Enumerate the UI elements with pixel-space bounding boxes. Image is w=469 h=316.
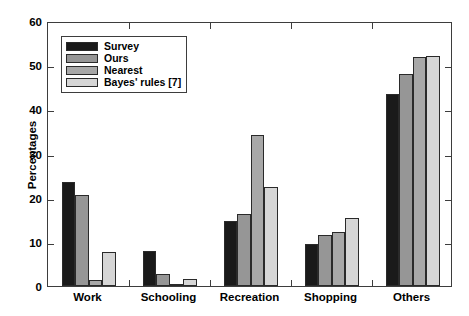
x-tick-mark [129, 23, 130, 29]
y-tick-mark [445, 244, 451, 245]
bar-recreation-bayes-rules-7 [264, 187, 278, 286]
x-tick-label: Schooling [141, 291, 197, 303]
bar-work-survey [62, 182, 76, 286]
bar-others-nearest [413, 57, 427, 286]
bar-others-bayes-rules-7 [426, 56, 440, 286]
legend-label-ours: Ours [104, 53, 129, 64]
x-tick-mark [129, 280, 130, 286]
bar-work-bayes-rules-7 [102, 252, 116, 286]
x-tick-label: Work [73, 291, 102, 303]
bar-work-nearest [89, 280, 103, 286]
y-tick-label: 10 [29, 237, 42, 249]
legend-swatch-bayes-rules [66, 78, 98, 87]
x-tick-mark [372, 23, 373, 29]
legend-swatch-ours [66, 54, 98, 63]
y-tick-mark [445, 156, 451, 157]
y-tick-mark [445, 67, 451, 68]
bar-work-ours [75, 195, 89, 286]
x-tick-label: Shopping [304, 291, 357, 303]
bar-recreation-survey [224, 221, 238, 286]
legend-swatch-nearest [66, 66, 98, 75]
plot-area: Survey Ours Nearest Bayes' rules [7] [47, 22, 452, 287]
y-tick-label: 20 [29, 193, 42, 205]
bar-others-ours [399, 74, 413, 286]
bar-schooling-bayes-rules-7 [183, 279, 197, 286]
x-tick-mark [291, 280, 292, 286]
x-tick-label: Others [393, 291, 430, 303]
y-tick-mark [48, 67, 54, 68]
legend-swatch-survey [66, 42, 98, 51]
bar-others-survey [386, 94, 400, 286]
x-tick-mark [210, 280, 211, 286]
x-tick-mark [372, 280, 373, 286]
legend-item-bayes-rules: Bayes' rules [7] [66, 77, 181, 88]
y-tick-mark [48, 111, 54, 112]
y-tick-label: 60 [29, 16, 42, 28]
legend: Survey Ours Nearest Bayes' rules [7] [61, 36, 187, 93]
chart-figure: Percentages 0102030405060 Survey Ours Ne… [0, 0, 469, 316]
legend-label-bayes-rules: Bayes' rules [7] [104, 77, 181, 88]
bar-schooling-ours [156, 274, 170, 286]
bar-shopping-ours [318, 235, 332, 286]
y-tick-label: 50 [29, 60, 42, 72]
bar-recreation-ours [237, 214, 251, 286]
legend-item-ours: Ours [66, 53, 181, 64]
x-tick-label: Recreation [220, 291, 279, 303]
y-tick-mark [48, 244, 54, 245]
y-tick-mark [445, 111, 451, 112]
y-tick-mark [48, 156, 54, 157]
legend-label-nearest: Nearest [104, 65, 143, 76]
y-axis-tick-labels: 0102030405060 [18, 22, 45, 287]
y-tick-label: 30 [29, 149, 42, 161]
bar-shopping-survey [305, 244, 319, 286]
legend-item-survey: Survey [66, 41, 181, 52]
bar-shopping-bayes-rules-7 [345, 218, 359, 286]
bar-shopping-nearest [332, 232, 346, 286]
y-tick-label: 40 [29, 104, 42, 116]
x-tick-mark [291, 23, 292, 29]
bar-schooling-nearest [170, 284, 184, 286]
x-tick-mark [210, 23, 211, 29]
legend-label-survey: Survey [104, 41, 139, 52]
legend-item-nearest: Nearest [66, 65, 181, 76]
bar-recreation-nearest [251, 135, 265, 286]
y-tick-label: 0 [36, 281, 42, 293]
x-axis-tick-labels: WorkSchoolingRecreationShoppingOthers [47, 289, 452, 311]
bar-schooling-survey [143, 251, 157, 286]
y-tick-mark [48, 200, 54, 201]
y-tick-mark [445, 200, 451, 201]
